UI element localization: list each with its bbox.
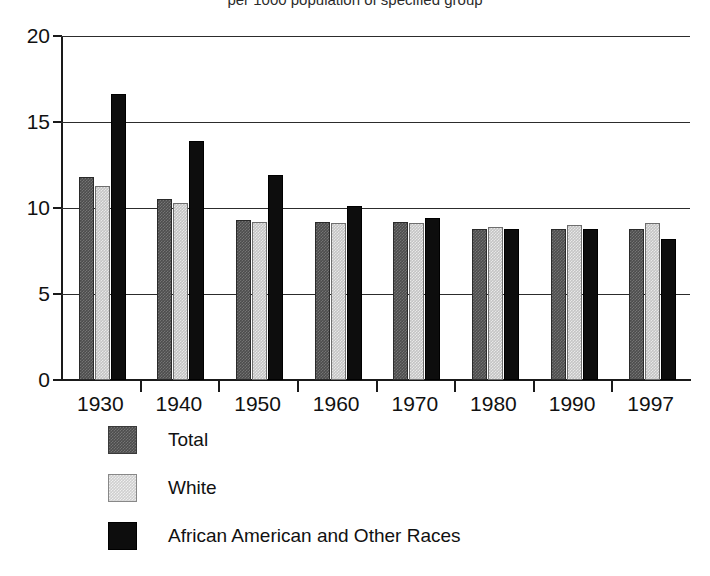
bar-1960-aa [347, 206, 362, 380]
legend-label-total: Total [168, 427, 208, 453]
bar-1930-white [95, 186, 110, 380]
bar-1960-white [331, 223, 346, 380]
y-tick-label-10: 10 [4, 197, 50, 218]
x-tick-mark-7 [611, 381, 613, 392]
x-tick-label-1940: 1940 [134, 392, 224, 416]
bar-1940-total [157, 199, 172, 380]
y-tick-label-20: 20 [4, 25, 50, 46]
bar-1940-aa [189, 141, 204, 380]
x-tick-mark-4 [376, 381, 378, 392]
legend-swatch-aa [108, 522, 137, 550]
legend-swatch-total [108, 426, 137, 454]
plot-area [61, 36, 690, 380]
x-tick-label-1950: 1950 [213, 392, 303, 416]
legend-label-white: White [168, 475, 217, 501]
y-tick-label-0: 0 [4, 369, 50, 390]
bar-1990-aa [583, 229, 598, 380]
x-tick-label-1970: 1970 [370, 392, 460, 416]
x-tick-label-1997: 1997 [606, 392, 696, 416]
bar-1950-white [252, 222, 267, 380]
x-tick-label-1990: 1990 [527, 392, 617, 416]
gridline-20 [61, 36, 690, 37]
bar-1940-white [173, 203, 188, 380]
bar-chart-figure: per 1000 population of specified group 0… [0, 0, 710, 576]
gridline-10 [61, 208, 690, 209]
bar-1990-white [567, 225, 582, 380]
bar-1950-total [236, 220, 251, 380]
x-tick-mark-1 [140, 381, 142, 392]
legend-label-aa: African American and Other Races [168, 523, 461, 549]
bar-1970-aa [425, 218, 440, 380]
x-tick-label-1930: 1930 [55, 392, 145, 416]
bar-1950-aa [268, 175, 283, 380]
bar-1960-total [315, 222, 330, 380]
bar-1980-aa [504, 229, 519, 380]
bar-1930-aa [111, 94, 126, 380]
x-tick-mark-6 [533, 381, 535, 392]
x-tick-mark-2 [218, 381, 220, 392]
bar-1970-total [393, 222, 408, 380]
x-tick-label-1960: 1960 [291, 392, 381, 416]
x-tick-label-1980: 1980 [448, 392, 538, 416]
bar-1980-total [472, 229, 487, 380]
legend-swatch-white [108, 474, 137, 502]
bar-1997-aa [661, 239, 676, 380]
bar-1997-total [629, 229, 644, 380]
bar-1930-total [79, 177, 94, 380]
bar-1997-white [645, 223, 660, 380]
x-tick-mark-5 [454, 381, 456, 392]
y-tick-label-15: 15 [4, 111, 50, 132]
bar-1970-white [409, 223, 424, 380]
bar-1990-total [551, 229, 566, 380]
bar-1980-white [488, 227, 503, 380]
x-tick-mark-3 [297, 381, 299, 392]
gridline-15 [61, 122, 690, 123]
chart-title: per 1000 population of specified group [0, 0, 710, 9]
y-tick-label-5: 5 [4, 283, 50, 304]
